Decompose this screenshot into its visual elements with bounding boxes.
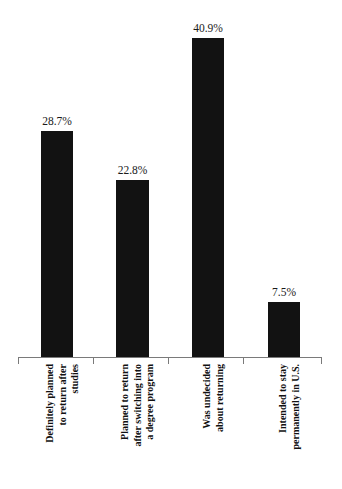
category-label-line: Planned to return [119,364,132,484]
category-label-line: about returning [214,364,227,484]
bar [192,38,224,358]
bar [116,180,149,358]
bar-value-label: 22.8% [118,164,148,177]
bar-chart: 28.7% 22.8% 40.9% 7.5% Definitely planne… [0,0,342,489]
category-label-line: to return after [57,364,70,484]
plot-area: 28.7% 22.8% 40.9% 7.5% [0,0,342,358]
bar-value-label: 28.7% [42,115,72,128]
bar-group: 40.9% [192,38,224,358]
x-axis-category-labels: Definitely planned to return after studi… [0,358,342,489]
bar-group: 22.8% [116,180,149,358]
bar [41,131,73,358]
category-label-line: a degree program [144,364,157,484]
bar-group: 28.7% [41,131,73,358]
category-label-line: Definitely planned [44,364,57,484]
bar-value-label: 40.9% [193,22,223,35]
category-label-line: permanently in U.S. [290,364,303,484]
bar-group: 7.5% [268,302,300,358]
bar-value-label: 7.5% [272,286,296,299]
category-label-line: after switching into [132,364,145,484]
category-label-line: Was undecided [201,364,214,484]
category-label-line: studies [69,364,82,484]
bar [268,302,300,358]
category-label-line: Intended to stay [277,364,290,484]
